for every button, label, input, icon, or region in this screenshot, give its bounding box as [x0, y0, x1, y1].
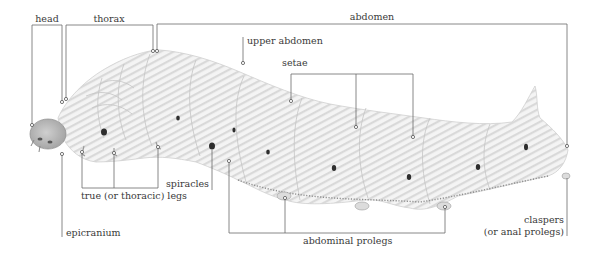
- spiracle: [101, 129, 107, 136]
- label-claspers-sub: (or anal prolegs): [484, 226, 564, 237]
- label-head: head: [35, 13, 59, 24]
- spiracle: [524, 144, 528, 150]
- label-thorax: thorax: [93, 13, 125, 24]
- label-abdomen: abdomen: [350, 11, 394, 22]
- label-spiracles: spiracles: [166, 178, 209, 189]
- head-leader: [32, 25, 62, 125]
- label-setae: setae: [282, 57, 308, 68]
- proleg: [355, 202, 369, 210]
- spiracle: [266, 149, 270, 154]
- spiracle: [407, 174, 411, 180]
- label-epicranium: epicranium: [66, 227, 121, 238]
- spiracle: [232, 127, 235, 132]
- caterpillar-anatomy-diagram: head thorax abdomen upper abdomen setae …: [0, 0, 598, 257]
- caterpillar-head: [30, 119, 66, 152]
- label-abdominal-prolegs: abdominal prolegs: [303, 235, 393, 246]
- spiracle: [476, 164, 480, 170]
- spiracle: [176, 115, 180, 120]
- label-claspers: claspers: [524, 214, 564, 225]
- label-upper-abdomen: upper abdomen: [247, 35, 323, 46]
- spiracle: [332, 165, 336, 171]
- label-true-legs: true (or thoracic) legs: [81, 190, 187, 201]
- clasper: [562, 173, 570, 179]
- spiracle: [209, 142, 215, 149]
